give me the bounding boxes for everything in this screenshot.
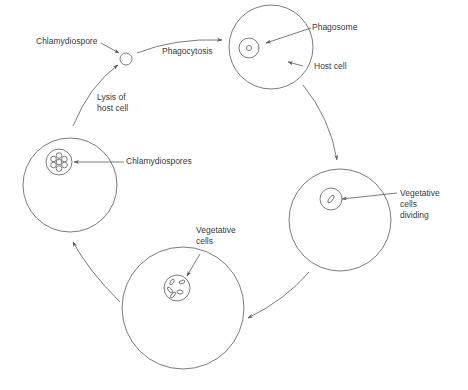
label-vegetative-1: Vegetative [196,225,236,235]
host-cell-vegetative [122,247,244,369]
arrow-vegetative-to-chlamydiospores [73,242,120,302]
free-chlamydiospore [120,53,132,65]
label-vegetative-dividing-1: Vegetative [400,188,440,198]
host-cell-vegetative-dividing [289,169,391,271]
arrow-host-to-dividing [303,85,337,160]
label-phagosome: Phagosome [312,22,357,32]
label-vegetative-2: cells [196,236,213,246]
life-cycle-diagram [0,0,468,390]
host-cell-with-phagosome [229,5,313,89]
leader-vegetative [187,254,200,276]
arrow-dividing-to-vegetative [248,272,309,318]
leader-phagosome [266,28,311,43]
label-lysis-1: Lysis of [97,92,126,102]
label-lysis-2: host cell [97,103,128,113]
phagosome [239,38,259,58]
label-vegetative-dividing-2: cells [400,199,417,209]
leader-host-cell [288,62,303,66]
leader-chlamydiospore [101,43,119,53]
label-chlamydiospore: Chlamydiospore [36,36,97,46]
label-phagocytosis: Phagocytosis [162,46,213,56]
label-chlamydiospores: Chlamydiospores [126,156,192,166]
host-cell-chlamydiospores [23,138,117,232]
leader-vegetative-dividing [342,193,397,199]
label-vegetative-dividing-3: dividing [400,210,429,220]
label-host-cell: Host cell [314,61,347,71]
